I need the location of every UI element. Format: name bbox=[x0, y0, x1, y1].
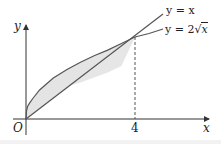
x-tick-label-4: 4 bbox=[131, 122, 139, 134]
label-y-equals-x-text: y = x bbox=[166, 4, 195, 17]
origin-label: O bbox=[13, 122, 23, 134]
label-y-equals-2-sqrt-x: y = 2√x bbox=[165, 24, 208, 35]
curve-y-equals-x bbox=[26, 14, 163, 119]
x-axis-label: x bbox=[203, 122, 210, 134]
plot-canvas bbox=[0, 0, 221, 144]
area-between-curves-figure: y x O 4 y = x y = 2√x bbox=[0, 0, 221, 144]
label-prefix: y = 2 bbox=[165, 23, 194, 36]
bottom-band bbox=[0, 140, 221, 144]
label-y-equals-x: y = x bbox=[166, 5, 195, 16]
y-axis-label: y bbox=[14, 20, 21, 32]
label-radicand: x bbox=[201, 22, 207, 36]
